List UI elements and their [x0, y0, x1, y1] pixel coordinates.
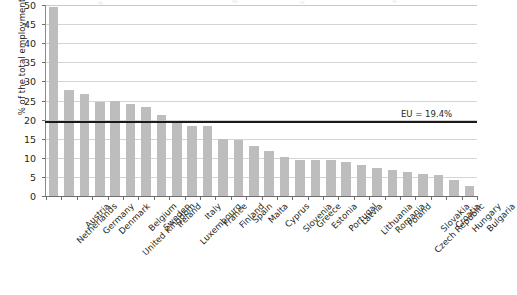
x-tick-mark: [277, 196, 278, 200]
bar: [403, 172, 413, 196]
y-tick-label: 25: [2, 95, 36, 106]
y-tick-label: 10: [2, 152, 36, 163]
x-tick-mark: [415, 196, 416, 200]
bar: [465, 186, 475, 196]
x-axis-labels: NetherlandsAustriaGermanyDenmarkUnited K…: [46, 201, 477, 295]
y-tick-label: 0: [2, 191, 36, 202]
y-tick-label: 40: [2, 38, 36, 49]
plot-area: 05101520253035404550 EU = 19.4%: [46, 5, 477, 196]
x-tick-mark: [431, 196, 432, 200]
x-tick-label-text: Latvia: [359, 201, 385, 227]
x-tick-mark: [262, 196, 263, 200]
x-tick-mark: [385, 196, 386, 200]
x-tick-mark: [215, 196, 216, 200]
y-tick-label: 20: [2, 114, 36, 125]
bar: [64, 90, 74, 196]
bar: [341, 162, 351, 196]
x-tick-mark: [138, 196, 139, 200]
bar: [49, 7, 59, 196]
y-tick-label: 45: [2, 19, 36, 30]
bar: [95, 102, 105, 196]
bar: [249, 146, 259, 196]
bar: [80, 94, 90, 196]
bar: [449, 180, 459, 196]
x-tick-mark: [400, 196, 401, 200]
x-tick-mark: [446, 196, 447, 200]
x-tick-mark: [200, 196, 201, 200]
y-tick-label: 35: [2, 57, 36, 68]
y-tick-label: 5: [2, 171, 36, 182]
bar: [172, 123, 182, 196]
bar: [311, 160, 321, 196]
bar-series: [46, 5, 477, 196]
scan-artifact: [300, 1, 305, 4]
x-tick-mark: [246, 196, 247, 200]
y-tick-label: 15: [2, 133, 36, 144]
x-tick-mark: [46, 196, 47, 200]
x-tick-mark: [61, 196, 62, 200]
x-tick-mark: [369, 196, 370, 200]
x-tick-mark: [169, 196, 170, 200]
y-tick-label: 50: [2, 0, 36, 11]
y-tick-label: 30: [2, 76, 36, 87]
bar: [157, 115, 167, 196]
eu-average-label: EU = 19.4%: [401, 109, 452, 119]
bar: [388, 170, 398, 196]
x-tick-mark: [354, 196, 355, 200]
bar: [434, 175, 444, 196]
bar: [326, 160, 336, 196]
x-tick-mark: [462, 196, 463, 200]
x-tick-mark: [77, 196, 78, 200]
x-tick-mark: [185, 196, 186, 200]
bar: [187, 126, 197, 196]
x-tick-mark: [123, 196, 124, 200]
x-tick-mark: [292, 196, 293, 200]
x-tick-mark: [308, 196, 309, 200]
x-tick-mark: [92, 196, 93, 200]
bar: [264, 151, 274, 196]
bar: [110, 101, 120, 196]
x-tick-mark: [108, 196, 109, 200]
x-tick-mark: [323, 196, 324, 200]
x-tick-mark: [231, 196, 232, 200]
x-tick-mark: [338, 196, 339, 200]
bar: [418, 174, 428, 196]
bar: [203, 126, 213, 196]
bar: [280, 157, 290, 196]
x-tick-label: Latvia: [359, 201, 385, 227]
x-tick-mark: [154, 196, 155, 200]
bar: [126, 104, 136, 196]
bar: [372, 168, 382, 196]
bar: [234, 140, 244, 196]
bar: [218, 139, 228, 196]
scan-artifact: [232, 0, 238, 3]
eu-average-line: [45, 121, 477, 123]
scan-artifact: [392, 0, 397, 3]
bar: [357, 165, 367, 196]
x-tick-mark: [477, 196, 478, 200]
bar: [295, 160, 305, 196]
